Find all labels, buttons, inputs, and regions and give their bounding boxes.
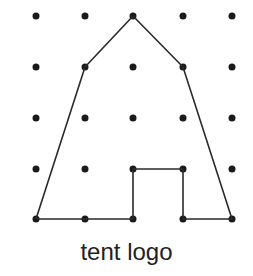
grid-dot (33, 166, 40, 173)
grid-dot (180, 13, 187, 20)
grid-dot (82, 166, 89, 173)
grid-dot (229, 64, 236, 71)
grid-dot (229, 115, 236, 122)
grid-dot (33, 64, 40, 71)
diagram-caption: tent logo (0, 238, 253, 266)
grid-dot (82, 13, 89, 20)
grid-dot (229, 13, 236, 20)
grid-dots (33, 13, 236, 223)
grid-dot (229, 166, 236, 173)
dot-grid-diagram (0, 0, 253, 276)
grid-dot (180, 115, 187, 122)
grid-dot (82, 115, 89, 122)
grid-dot (33, 13, 40, 20)
grid-dot (130, 115, 137, 122)
grid-dot (33, 115, 40, 122)
grid-dot (130, 64, 137, 71)
